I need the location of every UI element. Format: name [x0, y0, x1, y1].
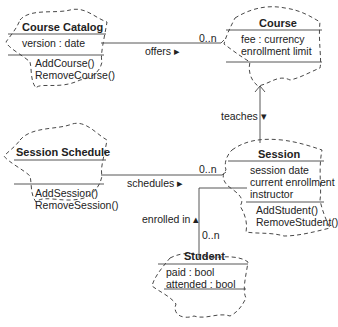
class-title-student: Student	[184, 250, 225, 262]
association-label-offers: offers ▸	[145, 45, 180, 57]
class-operation: AddSession()	[35, 187, 98, 199]
class-title-session: Session	[258, 148, 300, 160]
association-label-enrolled-in: enrolled in ▴	[142, 213, 199, 225]
class-operation: RemoveCourse()	[35, 69, 115, 81]
class-title-session-schedule: Session Schedule	[16, 146, 110, 158]
class-attribute: instructor	[250, 188, 293, 200]
class-attribute: paid : bool	[166, 266, 214, 278]
class-attribute: enrollment limit	[241, 45, 312, 57]
multiplicity-offers: 0..n	[199, 32, 217, 44]
class-operation: RemoveSession()	[35, 199, 118, 211]
enrolled-in-association-line	[199, 188, 247, 258]
class-attribute: version : date	[22, 37, 85, 49]
class-attribute: fee : currency	[241, 33, 305, 45]
class-operation: RemoveStudent()	[256, 216, 338, 228]
class-operation: AddStudent()	[256, 204, 318, 216]
class-operation: AddCourse()	[35, 57, 95, 69]
association-label-schedules: schedules ▸	[127, 177, 183, 189]
class-attribute: attended : bool	[166, 278, 235, 290]
class-title-course-catalog: Course Catalog	[22, 21, 103, 33]
class-attribute: session date	[250, 164, 309, 176]
multiplicity-enrolled-in: 0..n	[202, 229, 220, 241]
class-title-course: Course	[259, 17, 297, 29]
multiplicity-schedules: 0..n	[199, 163, 217, 175]
association-label-teaches: teaches ▾	[221, 110, 267, 122]
class-attribute: current enrollment	[250, 176, 335, 188]
